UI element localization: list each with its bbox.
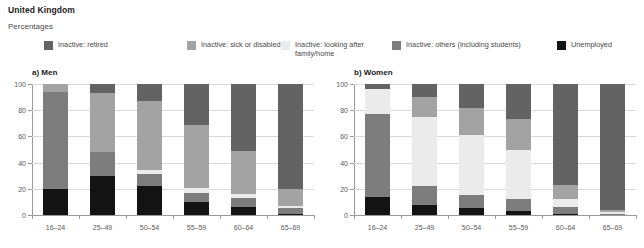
y-axis xyxy=(32,84,33,215)
x-tick xyxy=(314,215,315,219)
gridline xyxy=(32,110,314,111)
bar-segment[interactable] xyxy=(365,84,390,89)
stacked-bar[interactable] xyxy=(412,84,437,215)
bar-segment[interactable] xyxy=(459,135,484,195)
bar-segment[interactable] xyxy=(506,84,531,119)
bar-segment[interactable] xyxy=(278,84,303,189)
bar-segment[interactable] xyxy=(231,198,256,207)
bar-segment[interactable] xyxy=(553,207,578,214)
stacked-bar[interactable] xyxy=(184,84,209,215)
y-tick xyxy=(350,136,354,137)
legend-item[interactable]: Unemployed xyxy=(557,41,644,50)
bar-segment[interactable] xyxy=(43,189,68,215)
bar-segment[interactable] xyxy=(553,199,578,207)
bar-segment[interactable] xyxy=(43,84,68,92)
bar-segment[interactable] xyxy=(231,84,256,151)
bar-segment[interactable] xyxy=(553,214,578,215)
stacked-bar[interactable] xyxy=(459,84,484,215)
y-axis xyxy=(354,84,355,215)
bar-segment[interactable] xyxy=(278,206,303,209)
bar-segment[interactable] xyxy=(137,101,162,170)
stacked-bar[interactable] xyxy=(600,84,625,215)
stacked-bar[interactable] xyxy=(365,84,390,215)
bar-segment[interactable] xyxy=(365,197,390,215)
plot-area: 02040608010016–2425–4950–5455–5960–6465–… xyxy=(32,84,314,215)
legend-label: Inactive: retired xyxy=(58,41,108,50)
bar-segment[interactable] xyxy=(137,84,162,101)
bar-segment[interactable] xyxy=(600,214,625,215)
bar-segment[interactable] xyxy=(412,117,437,186)
stacked-bar[interactable] xyxy=(278,84,303,215)
x-axis-label: 16–24 xyxy=(46,224,65,231)
bar-segment[interactable] xyxy=(459,108,484,136)
bar-segment[interactable] xyxy=(137,170,162,174)
stacked-bar[interactable] xyxy=(231,84,256,215)
x-axis-label: 55–59 xyxy=(187,224,206,231)
x-tick xyxy=(589,215,590,219)
bar-segment[interactable] xyxy=(43,92,68,189)
bar-segment[interactable] xyxy=(459,84,484,108)
bar-segment[interactable] xyxy=(365,89,390,114)
bar-segment[interactable] xyxy=(137,186,162,215)
bar-segment[interactable] xyxy=(506,119,531,149)
x-tick xyxy=(448,215,449,219)
legend-item[interactable]: Inactive: retired xyxy=(44,41,164,50)
x-axis-label: 55–59 xyxy=(509,224,528,231)
stacked-bar[interactable] xyxy=(137,84,162,215)
bar-segment[interactable] xyxy=(506,199,531,211)
chart-panel-men: a) Men02040608010016–2425–4950–5455–5960… xyxy=(8,68,318,238)
stacked-bar[interactable] xyxy=(90,84,115,215)
y-axis-label: 40 xyxy=(340,159,348,166)
stacked-bar[interactable] xyxy=(506,84,531,215)
legend-label: Inactive: others (including students) xyxy=(406,41,521,50)
legend-item[interactable]: Inactive: looking after family/home xyxy=(281,41,391,58)
y-tick xyxy=(350,189,354,190)
y-axis-label: 0 xyxy=(22,212,26,219)
x-tick xyxy=(636,215,637,219)
y-axis-label: 80 xyxy=(340,107,348,114)
y-axis-label: 60 xyxy=(340,133,348,140)
bar-segment[interactable] xyxy=(278,214,303,215)
bar-segment[interactable] xyxy=(553,84,578,185)
bar-segment[interactable] xyxy=(278,208,303,213)
y-axis-label: 100 xyxy=(14,81,26,88)
bar-segment[interactable] xyxy=(459,208,484,215)
bar-segment[interactable] xyxy=(184,125,209,188)
chart-page: United Kingdom Percentages Inactive: ret… xyxy=(0,0,644,248)
bar-segment[interactable] xyxy=(137,174,162,186)
bar-segment[interactable] xyxy=(412,97,437,117)
legend-item[interactable]: Inactive: others (including students) xyxy=(392,41,577,50)
bar-segment[interactable] xyxy=(278,189,303,206)
bar-segment[interactable] xyxy=(600,212,625,213)
bar-segment[interactable] xyxy=(459,195,484,208)
bar-segment[interactable] xyxy=(90,176,115,215)
stacked-bar[interactable] xyxy=(553,84,578,215)
bar-segment[interactable] xyxy=(506,150,531,200)
x-axis-label: 65–69 xyxy=(281,224,300,231)
x-tick xyxy=(354,215,355,219)
bar-segment[interactable] xyxy=(506,211,531,215)
bar-segment[interactable] xyxy=(90,84,115,93)
bar-segment[interactable] xyxy=(231,151,256,194)
y-axis-label: 40 xyxy=(18,159,26,166)
stacked-bar[interactable] xyxy=(43,84,68,215)
bar-segment[interactable] xyxy=(231,194,256,198)
bar-segment[interactable] xyxy=(600,84,625,210)
bar-segment[interactable] xyxy=(365,114,390,197)
bar-segment[interactable] xyxy=(553,185,578,199)
bar-segment[interactable] xyxy=(90,152,115,176)
bar-segment[interactable] xyxy=(90,93,115,152)
bar-segment[interactable] xyxy=(184,84,209,125)
y-tick xyxy=(28,163,32,164)
bar-segment[interactable] xyxy=(412,186,437,204)
bar-segment[interactable] xyxy=(600,210,625,213)
bar-segment[interactable] xyxy=(184,188,209,193)
bar-segment[interactable] xyxy=(412,84,437,97)
gridline xyxy=(354,136,636,137)
bar-segment[interactable] xyxy=(412,205,437,215)
chart-panel-women: b) Women02040608010016–2425–4950–5455–59… xyxy=(330,68,640,238)
bar-segment[interactable] xyxy=(184,202,209,215)
legend-swatch-icon xyxy=(281,41,290,50)
bar-segment[interactable] xyxy=(184,193,209,202)
bar-segment[interactable] xyxy=(231,207,256,215)
